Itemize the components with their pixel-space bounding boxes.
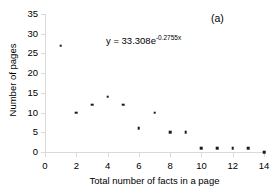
panel-label: (a) bbox=[211, 13, 224, 24]
y-axis-tick-label: 5 bbox=[33, 127, 38, 137]
data-point bbox=[91, 103, 94, 106]
data-point bbox=[59, 44, 62, 47]
x-axis-line bbox=[45, 152, 264, 153]
fit-equation-base: y = 33.308e bbox=[106, 35, 156, 46]
fit-equation-exponent: -0.2755x bbox=[156, 34, 181, 41]
data-point bbox=[216, 147, 219, 150]
x-axis-tickmark bbox=[139, 153, 140, 157]
x-axis-tick-label: 12 bbox=[227, 161, 238, 171]
data-point bbox=[122, 103, 125, 106]
x-axis-tickmark bbox=[76, 153, 77, 157]
data-point bbox=[263, 151, 266, 154]
data-point bbox=[138, 127, 141, 130]
data-point bbox=[200, 147, 203, 150]
scatter-chart: 05101520253035 02468101214 y = 33.308e-0… bbox=[0, 0, 277, 193]
data-point bbox=[106, 96, 109, 99]
x-axis-tickmark bbox=[233, 153, 234, 157]
x-axis-tick-label: 0 bbox=[42, 161, 47, 171]
x-axis-tickmark bbox=[170, 153, 171, 157]
data-point bbox=[231, 147, 234, 150]
x-axis-tick-label: 14 bbox=[259, 161, 270, 171]
fit-equation-annotation: y = 33.308e-0.2755x bbox=[106, 35, 181, 46]
y-axis-tick-label: 30 bbox=[27, 29, 38, 39]
y-axis-tick-label: 25 bbox=[27, 48, 38, 58]
x-axis-title: Total number of facts in a page bbox=[45, 176, 264, 186]
x-axis-tickmark bbox=[108, 153, 109, 157]
x-axis-tickmark bbox=[201, 153, 202, 157]
data-point bbox=[247, 147, 250, 150]
x-axis-tick-label: 4 bbox=[105, 161, 110, 171]
x-axis-tickmark bbox=[45, 153, 46, 157]
y-axis-tick-label: 15 bbox=[27, 88, 38, 98]
y-axis-title: Number of pages bbox=[8, 20, 18, 140]
data-point bbox=[169, 131, 172, 134]
x-axis-tick-label: 6 bbox=[136, 161, 141, 171]
data-point bbox=[75, 111, 78, 114]
y-axis-tick-label: 35 bbox=[27, 9, 38, 19]
x-axis-tickmark bbox=[264, 153, 265, 157]
x-axis-tick-label: 2 bbox=[74, 161, 79, 171]
y-axis-tick-label: 0 bbox=[33, 147, 38, 157]
data-point bbox=[184, 131, 187, 134]
x-axis-tick-label: 8 bbox=[167, 161, 172, 171]
x-axis-tick-label: 10 bbox=[196, 161, 207, 171]
data-point bbox=[153, 111, 156, 114]
y-axis-tick-label: 20 bbox=[27, 68, 38, 78]
y-axis-tick-label: 10 bbox=[27, 108, 38, 118]
